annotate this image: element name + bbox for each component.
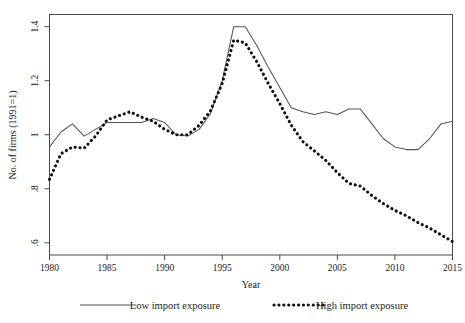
chart-legend: Low import exposureHigh import exposure: [80, 300, 408, 311]
x-tick-label: 2000: [270, 263, 289, 273]
y-tick-label: 1.4: [30, 20, 40, 32]
y-tick-label: .6: [30, 239, 40, 246]
x-tick-label: 2005: [328, 263, 347, 273]
x-tick-label: 2010: [385, 263, 404, 273]
x-axis-ticks: [50, 255, 453, 260]
plot-frame: [50, 15, 453, 256]
y-tick-label: 1: [30, 132, 40, 137]
y-axis-title: No. of firms (1991=1): [7, 91, 19, 180]
y-axis-ticks: [45, 27, 50, 243]
line-chart: .6.811.21.4 1980198519901995200020052010…: [0, 0, 465, 323]
y-tick-label: .8: [30, 185, 40, 192]
y-tick-label: 1.2: [30, 75, 40, 87]
x-tick-label: 2015: [443, 263, 462, 273]
x-tick-label: 1990: [155, 263, 174, 273]
legend-label-1: Low import exposure: [130, 300, 221, 311]
x-axis-title: Year: [242, 279, 261, 290]
x-tick-label: 1985: [98, 263, 117, 273]
x-tick-label: 1995: [213, 263, 232, 273]
y-axis-tick-labels: .6.811.21.4: [30, 20, 40, 246]
legend-label-2: High import exposure: [316, 300, 408, 311]
x-axis-tick-labels: 19801985199019952000200520102015: [40, 263, 462, 273]
x-tick-label: 1980: [40, 263, 59, 273]
chart-figure: .6.811.21.4 1980198519901995200020052010…: [0, 0, 465, 323]
